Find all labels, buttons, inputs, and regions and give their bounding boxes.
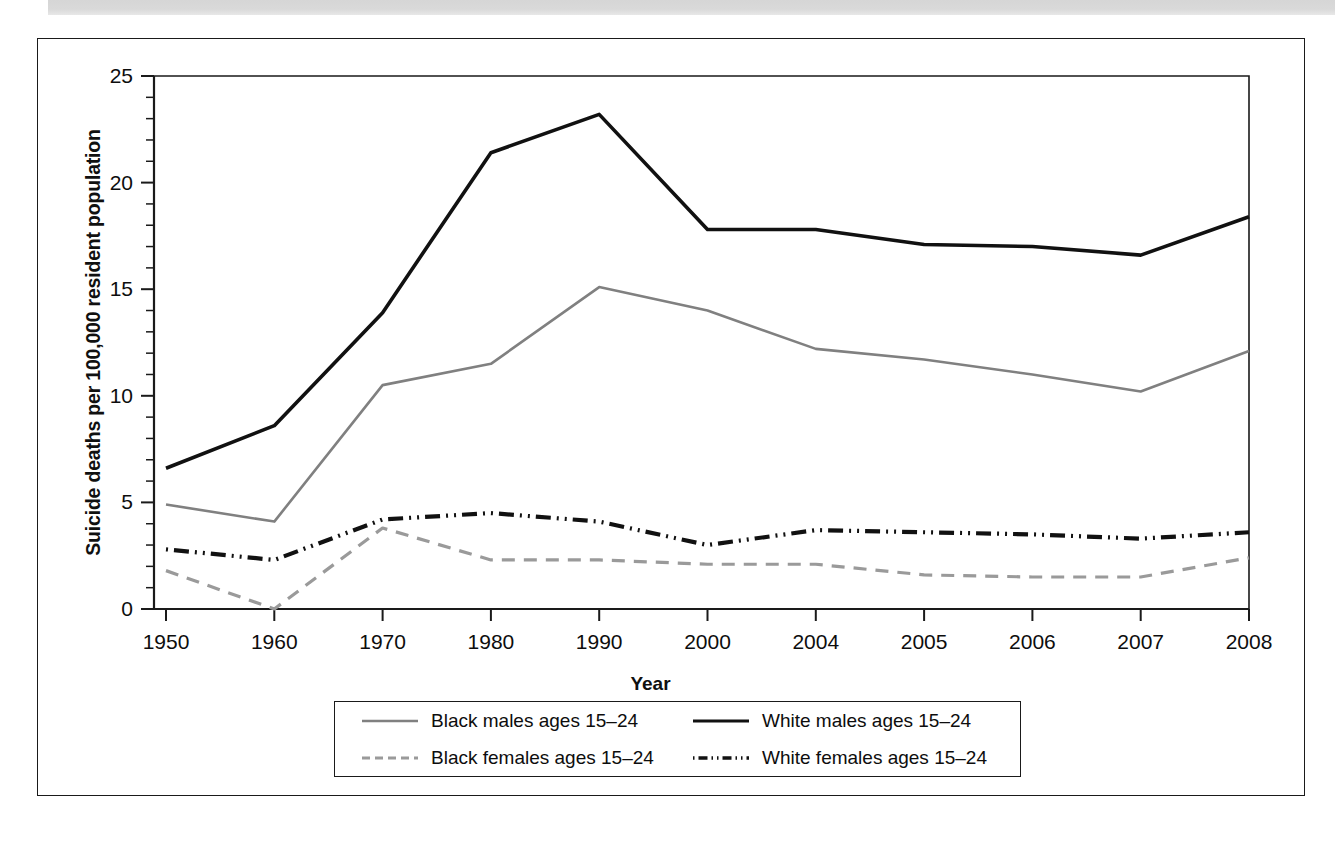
figure-drop-shadow [45, 798, 1317, 824]
legend-row: Black males ages 15–24 White males ages … [335, 702, 1020, 739]
figure-panel: Suicide deaths per 100,000 resident popu… [37, 38, 1305, 796]
series-line-1 [166, 114, 1249, 468]
y-tick-label: 10 [87, 385, 133, 406]
legend-label: White males ages 15–24 [762, 710, 971, 732]
legend-swatch-black-females [361, 751, 419, 765]
legend-swatch-white-males [692, 714, 750, 728]
legend-swatch-white-females [692, 751, 750, 765]
x-tick-label: 2004 [761, 631, 871, 652]
legend-label: Black females ages 15–24 [431, 747, 654, 769]
x-tick-label: 2000 [653, 631, 763, 652]
legend-label: Black males ages 15–24 [431, 710, 638, 732]
x-tick-label: 1980 [436, 631, 546, 652]
x-tick-label: 2007 [1086, 631, 1196, 652]
y-tick-label: 20 [87, 172, 133, 193]
x-tick-label: 2008 [1194, 631, 1304, 652]
y-tick-label: 25 [87, 65, 133, 86]
x-tick-label: 1950 [111, 631, 221, 652]
legend-label: White females ages 15–24 [762, 747, 987, 769]
decorative-top-band [48, 0, 1335, 15]
series-line-3 [166, 513, 1249, 560]
x-tick-label: 1960 [219, 631, 329, 652]
legend-entry-white-females[interactable]: White females ages 15–24 [682, 747, 1020, 769]
x-tick-label: 1990 [544, 631, 654, 652]
chart-legend: Black males ages 15–24 White males ages … [334, 701, 1021, 777]
legend-entry-black-males[interactable]: Black males ages 15–24 [335, 710, 682, 732]
x-tick-label: 2005 [869, 631, 979, 652]
legend-row: Black females ages 15–24 White females a… [335, 739, 1020, 776]
series-line-0 [166, 287, 1249, 522]
legend-entry-white-males[interactable]: White males ages 15–24 [682, 710, 1020, 732]
x-axis-title: Year [38, 673, 1263, 695]
x-tick-label: 2006 [977, 631, 1087, 652]
line-chart: Suicide deaths per 100,000 resident popu… [38, 39, 1306, 797]
y-tick-label: 5 [87, 491, 133, 512]
x-tick-label: 1970 [328, 631, 438, 652]
legend-entry-black-females[interactable]: Black females ages 15–24 [335, 747, 682, 769]
y-tick-label: 0 [87, 598, 133, 619]
y-tick-label: 15 [87, 278, 133, 299]
y-axis-title: Suicide deaths per 100,000 resident popu… [82, 83, 105, 603]
legend-swatch-black-males [361, 714, 419, 728]
